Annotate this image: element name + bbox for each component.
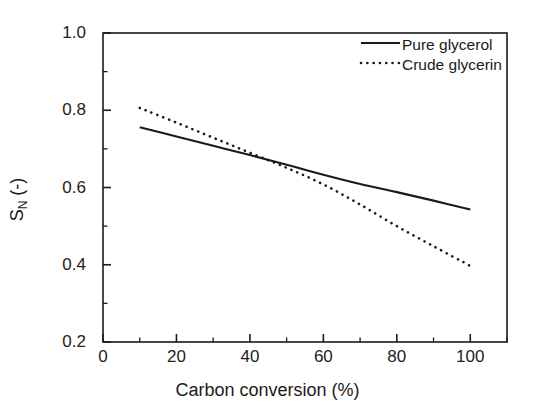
plot-frame <box>103 33 507 342</box>
y-axis-major-ticks <box>103 33 111 342</box>
x-axis-title: Carbon conversion (%) <box>0 380 535 401</box>
y-tick-label: 0.2 <box>62 332 86 352</box>
x-tick-label: 80 <box>387 347 406 367</box>
x-tick-label: 60 <box>314 347 333 367</box>
x-tick-label: 100 <box>456 347 484 367</box>
y-tick-label: 1.0 <box>62 23 86 43</box>
chart-figure: 020406080100 0.20.40.60.81.0 Carbon conv… <box>0 0 535 420</box>
x-tick-label: 40 <box>240 347 259 367</box>
y-tick-label: 0.4 <box>62 255 86 275</box>
y-axis-title-unit: (-) <box>7 178 27 201</box>
legend-item-pure-glycerol: Pure glycerol <box>402 36 492 54</box>
y-tick-label: 0.6 <box>62 178 86 198</box>
series-line-crude-glycerin <box>140 108 471 266</box>
legend-item-crude-glycerin: Crude glycerin <box>402 56 502 74</box>
y-axis-title: SN (-) <box>7 120 30 280</box>
series-line-pure-glycerol <box>140 127 471 209</box>
y-axis-title-base: S <box>7 209 27 221</box>
y-tick-label: 0.8 <box>62 100 86 120</box>
y-axis-title-subscript: N <box>16 201 30 210</box>
x-tick-label: 20 <box>167 347 186 367</box>
x-tick-label: 0 <box>98 347 107 367</box>
legend-line-samples <box>361 43 400 63</box>
data-series-group <box>140 108 471 266</box>
